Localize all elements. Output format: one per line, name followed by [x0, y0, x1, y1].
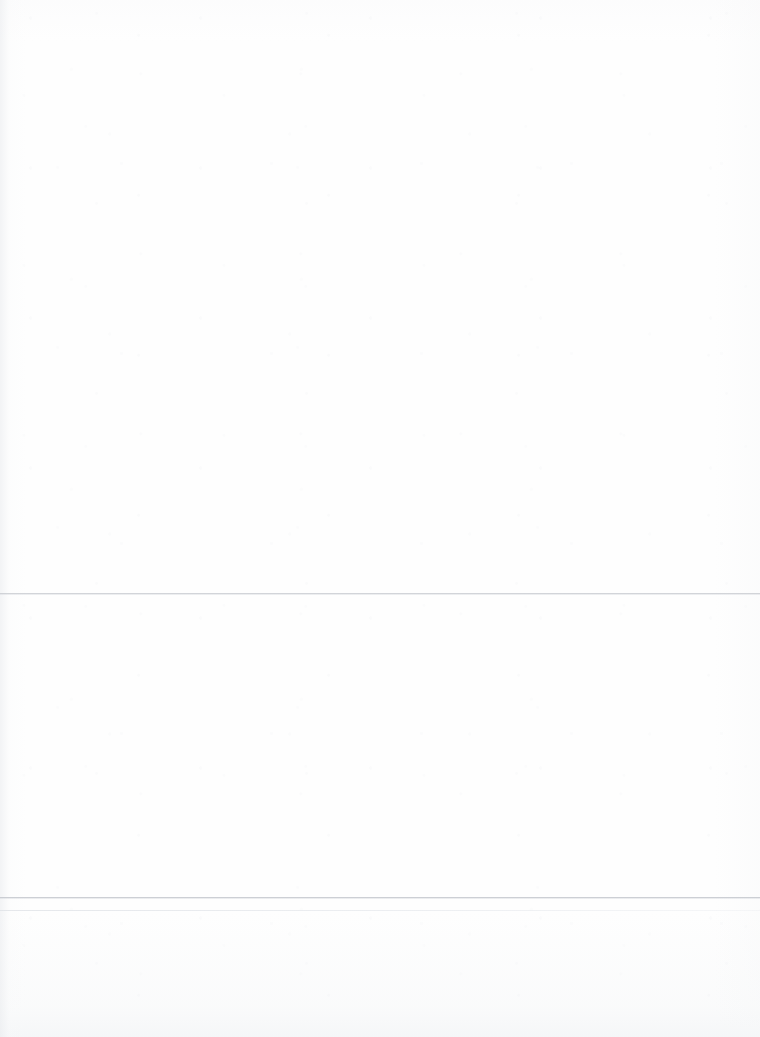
section-divider-lower [0, 897, 760, 899]
paper-background [0, 0, 760, 1037]
scan-noise-overlay [0, 0, 760, 1037]
section-divider-upper [0, 593, 760, 595]
footer-divider [0, 910, 760, 911]
scanned-document-page [0, 0, 760, 1037]
